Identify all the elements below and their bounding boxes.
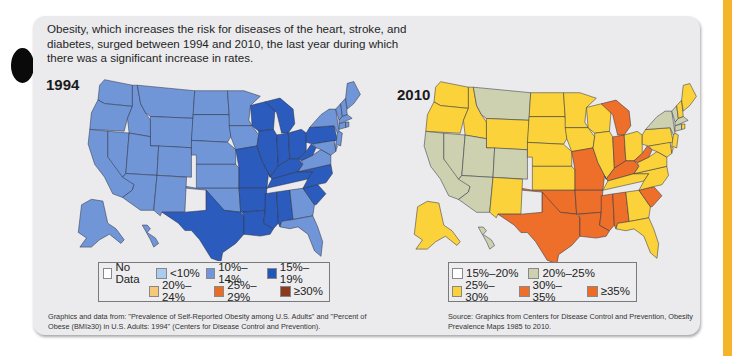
swatch (156, 268, 167, 279)
state-wa (98, 80, 132, 107)
state-ak (78, 199, 124, 247)
state-sd (191, 115, 230, 143)
legend-item-gte35: ≥35% (587, 285, 630, 297)
state-wy (150, 116, 193, 147)
state-ks (196, 164, 239, 188)
state-ar (239, 188, 267, 212)
swatch (267, 268, 276, 279)
state-ri (346, 122, 349, 128)
swatch (452, 286, 462, 297)
swatch (587, 286, 598, 297)
legend-item-30-35: 30%–35% (519, 279, 580, 303)
legend-item-20-24: 20%–24% (149, 279, 208, 303)
state-ks (532, 166, 575, 190)
legend-item-25-30: 25%–30% (452, 279, 513, 303)
legend-item-lt10: <10% (156, 267, 200, 279)
state-ms (600, 194, 615, 231)
state-ne (191, 140, 235, 164)
credit-1994: Graphics and data from: "Prevalence of S… (48, 312, 378, 331)
legend-item-no-data: No Data (103, 261, 150, 285)
us-map-1994 (75, 76, 365, 261)
state-hi (142, 225, 158, 247)
swatch (519, 286, 529, 297)
state-wy (486, 118, 529, 149)
state-nm (490, 177, 523, 217)
swatch (280, 286, 291, 297)
state-nd (193, 91, 229, 115)
state-ia (565, 128, 595, 152)
legend-1994: No Data <10% 10%–14% 15%–19% 20%–24% 25%… (98, 262, 330, 302)
state-hi (478, 227, 494, 249)
obesity-comparison-card: Obesity, which increases the risk for di… (33, 16, 700, 335)
legend-item-gte30: ≥30% (280, 285, 323, 297)
state-nj (672, 133, 679, 148)
legend-item-20-25: 20%–25% (528, 267, 594, 279)
state-fl (616, 218, 659, 258)
state-co (493, 148, 527, 179)
state-ak (414, 201, 460, 249)
legend-2010: 15%–20% 20%–25% 25%–30% 30%–35% ≥35% (448, 262, 637, 302)
swatch (103, 268, 112, 279)
state-nj (336, 131, 343, 146)
state-sd (527, 117, 566, 145)
state-me (346, 82, 361, 110)
credit-2010: Source: Graphics from Centers for Diseas… (448, 312, 698, 331)
swatch (528, 268, 539, 279)
state-nm (154, 175, 187, 215)
state-mt (473, 87, 530, 120)
swatch (206, 268, 215, 279)
state-wa (434, 82, 468, 109)
swatch (452, 268, 463, 279)
state-ri (682, 124, 685, 130)
state-ar (575, 190, 603, 214)
state-ia (229, 126, 259, 150)
state-mt (137, 85, 194, 118)
state-co (157, 146, 191, 177)
us-map-2010 (411, 78, 701, 263)
state-ne (527, 142, 571, 166)
state-fl (280, 216, 323, 256)
legend-item-15-19: 15%–19% (267, 261, 323, 285)
legend-2010-row-2: 25%–30% 30%–35% ≥35% (449, 282, 636, 300)
bullet-dot (11, 48, 34, 83)
state-me (682, 84, 697, 112)
state-nd (529, 93, 565, 117)
state-ms (264, 192, 279, 229)
page-edge-accent-bar (723, 0, 732, 356)
swatch (214, 286, 224, 297)
legend-item-15-20: 15%–20% (452, 267, 518, 279)
legend-item-25-29: 25%–29% (214, 279, 273, 303)
swatch (149, 286, 159, 297)
intro-text: Obesity, which increases the risk for di… (47, 22, 427, 66)
